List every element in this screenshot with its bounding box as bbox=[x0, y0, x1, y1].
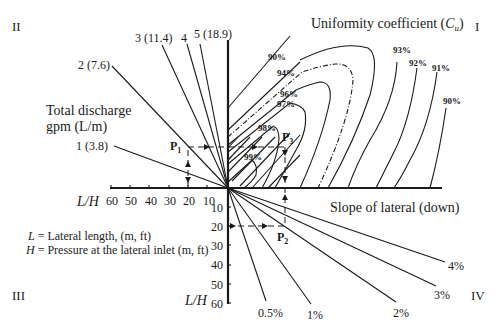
discharge-label-2: 2 (7.6) bbox=[78, 58, 110, 72]
point-P3-label: P3 bbox=[282, 130, 293, 146]
horizontal-axis-label: L/H bbox=[76, 194, 100, 209]
quadrant-I-label: I bbox=[475, 19, 479, 34]
svg-text:98%: 98% bbox=[258, 123, 276, 133]
legend-L: L = Lateral length, (m, ft) bbox=[27, 229, 151, 243]
svg-text:60: 60 bbox=[106, 194, 118, 208]
discharge-label-5: 5 (18.9) bbox=[194, 27, 232, 41]
svg-text:40: 40 bbox=[211, 258, 223, 272]
svg-text:30: 30 bbox=[164, 194, 176, 208]
svg-text:10: 10 bbox=[211, 201, 223, 215]
svg-text:20: 20 bbox=[211, 220, 223, 234]
slope-label-0-5: 0.5% bbox=[258, 306, 283, 320]
svg-text:20: 20 bbox=[183, 194, 195, 208]
discharge-title-line2: gpm (L/m) bbox=[46, 119, 107, 135]
svg-text:60: 60 bbox=[211, 297, 223, 311]
uniformity-title: Uniformity coefficient (Cu) bbox=[311, 16, 464, 33]
legend-H: H = Pressure at the lateral inlet (m, ft… bbox=[25, 243, 208, 257]
slope-label-3: 3% bbox=[434, 288, 450, 302]
quadrant-III-label: III bbox=[12, 288, 25, 303]
quadrant-II-label: II bbox=[12, 19, 21, 34]
svg-text:94%: 94% bbox=[277, 68, 295, 78]
slope-label-1: 1% bbox=[307, 308, 323, 322]
discharge-label-4: 4 bbox=[181, 31, 187, 45]
discharge-title-line1: Total discharge bbox=[46, 103, 131, 118]
slope-label-4: 4% bbox=[448, 259, 464, 273]
vertical-tick-labels: 10 20 30 40 50 60 bbox=[211, 201, 223, 311]
vertical-axis-label: L/H bbox=[184, 293, 208, 308]
svg-text:99%: 99% bbox=[244, 152, 262, 162]
svg-text:50: 50 bbox=[125, 194, 137, 208]
svg-text:40: 40 bbox=[145, 194, 157, 208]
svg-text:30: 30 bbox=[211, 239, 223, 253]
svg-text:90%: 90% bbox=[443, 96, 461, 106]
slope-label-2: 2% bbox=[393, 306, 409, 320]
contour-labels: 90% 94% 96% 97% 98% 99% 93% 92% 91% 90% bbox=[244, 45, 461, 162]
horizontal-tick-labels: 60 50 40 30 20 10 bbox=[106, 194, 215, 208]
svg-text:90%: 90% bbox=[268, 52, 286, 62]
discharge-label-3: 3 (11.4) bbox=[135, 31, 173, 45]
svg-text:50: 50 bbox=[211, 278, 223, 292]
svg-text:93%: 93% bbox=[393, 45, 411, 55]
nomograph-figure: II I III IV Uniformity coefficient (Cu) bbox=[0, 0, 498, 330]
svg-text:96%: 96% bbox=[280, 89, 298, 99]
discharge-label-1: 1 (3.8) bbox=[76, 139, 108, 153]
quadrant-IV-label: IV bbox=[471, 288, 485, 303]
svg-text:97%: 97% bbox=[277, 99, 295, 109]
slope-title: Slope of lateral (down) bbox=[330, 200, 460, 216]
svg-text:92%: 92% bbox=[409, 58, 427, 68]
point-P1-label: P1 bbox=[170, 139, 181, 155]
point-P2-label: P2 bbox=[277, 230, 288, 246]
svg-text:91%: 91% bbox=[432, 63, 450, 73]
